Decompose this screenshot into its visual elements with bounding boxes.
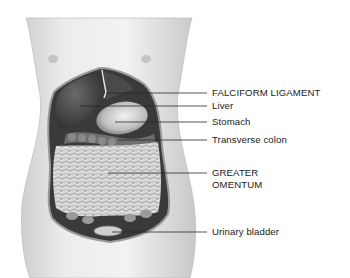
abdomen-illustration <box>0 0 350 278</box>
urinary-bladder <box>94 226 122 236</box>
label-liver: Liver <box>212 100 233 111</box>
label-transverse-colon: Transverse colon <box>212 134 287 145</box>
label-stomach: Stomach <box>212 116 251 127</box>
label-falciform-ligament: FALCIFORM LIGAMENT <box>212 87 320 98</box>
label-greater-omentum-line1: GREATER <box>212 167 258 178</box>
greater-omentum <box>53 142 161 217</box>
label-urinary-bladder: Urinary bladder <box>212 226 279 237</box>
label-greater-omentum-line2: OMENTUM <box>212 179 262 190</box>
anatomy-diagram: FALCIFORM LIGAMENT Liver Stomach Transve… <box>0 0 350 278</box>
